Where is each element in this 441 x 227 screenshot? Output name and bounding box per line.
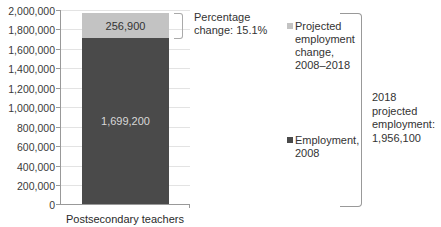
gridline bbox=[60, 10, 190, 11]
y-tick-label: 1,000,000 bbox=[8, 102, 55, 114]
annotation-line: employment: bbox=[372, 118, 441, 132]
y-tick-label: 800,000 bbox=[17, 122, 55, 134]
x-axis-end-tick bbox=[189, 204, 190, 208]
y-tick-label: 0 bbox=[49, 199, 55, 211]
bar-value-label: 1,699,200 bbox=[101, 115, 150, 127]
total-bracket bbox=[340, 13, 362, 207]
annotation-line: 1,956,100 bbox=[372, 132, 441, 146]
y-tick-label: 600,000 bbox=[17, 141, 55, 153]
y-tick-label: 1,600,000 bbox=[8, 44, 55, 56]
y-axis bbox=[60, 10, 61, 205]
annotation-line: projected bbox=[372, 105, 441, 119]
bar-segment-projected-change: 256,900 bbox=[82, 13, 169, 38]
percentage-bracket bbox=[174, 13, 183, 39]
bar-segment-employment-2008: 1,699,200 bbox=[82, 38, 169, 204]
bar-value-label: 256,900 bbox=[106, 20, 146, 32]
x-category-label: Postsecondary teachers bbox=[60, 213, 190, 225]
legend-swatch bbox=[287, 137, 293, 143]
y-tick-label: 1,200,000 bbox=[8, 83, 55, 95]
y-tick-label: 1,800,000 bbox=[8, 24, 55, 36]
y-tick-label: 200,000 bbox=[17, 180, 55, 192]
y-tick-label: 400,000 bbox=[17, 161, 55, 173]
x-axis bbox=[60, 204, 190, 205]
annotation-line: 2018 bbox=[372, 91, 441, 105]
total-projected-annotation: 2018 projected employment: 1,956,100 bbox=[372, 91, 441, 145]
legend-swatch bbox=[287, 23, 293, 29]
y-tick-label: 1,400,000 bbox=[8, 63, 55, 75]
percentage-change-annotation: Percentage change: 15.1% bbox=[194, 11, 284, 37]
y-tick-label: 2,000,000 bbox=[8, 5, 55, 17]
